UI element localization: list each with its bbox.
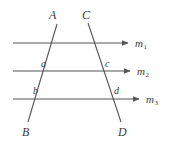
parallel-lines-group <box>13 43 139 99</box>
vertex-label-C: C <box>82 9 90 21</box>
line-label-m3-base: m <box>146 93 154 105</box>
transversals-group <box>28 23 121 122</box>
line-label-m2-subscript: 2 <box>145 71 149 79</box>
vertex-label-A: A <box>49 9 56 21</box>
angle-label-d: d <box>114 86 119 96</box>
line-label-m3-subscript: 3 <box>154 99 158 107</box>
line-label-m2: m2 <box>137 66 148 77</box>
line-label-m2-base: m <box>137 65 145 77</box>
transversal-line-CD <box>88 23 121 122</box>
vertex-label-B: B <box>22 126 29 138</box>
transversal-line-AB <box>28 24 57 122</box>
line-label-m1: m1 <box>135 38 146 49</box>
line-label-m1-base: m <box>135 37 143 49</box>
line-label-m3: m3 <box>146 94 157 105</box>
angle-label-a: a <box>41 59 46 69</box>
geometry-figure: A C B D a c b d m1 m2 m3 <box>0 0 177 143</box>
angle-label-b: b <box>33 86 38 96</box>
line-label-m1-subscript: 1 <box>143 43 147 51</box>
vertex-label-D: D <box>118 126 127 138</box>
angle-label-c: c <box>105 59 109 69</box>
